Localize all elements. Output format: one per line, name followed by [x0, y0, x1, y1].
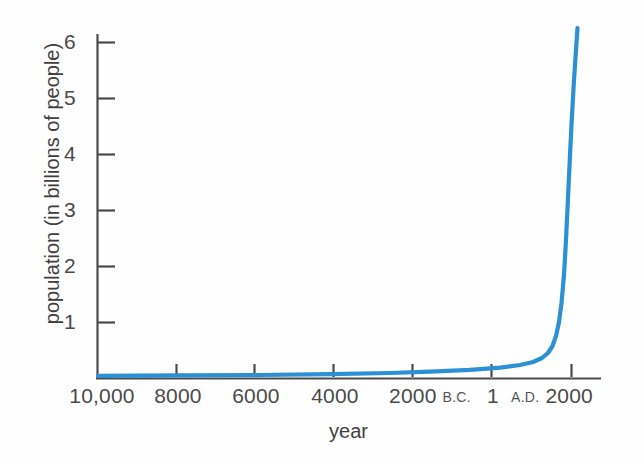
y-axis-ticks: [98, 43, 115, 323]
era-mark-ad: A.D.: [511, 389, 539, 405]
x-axis-title: year: [97, 420, 600, 443]
x-tick-label-6000bc: 6000: [232, 384, 280, 408]
x-tick-label-2000ad-value: 2000: [545, 384, 593, 407]
population-curve: [98, 28, 578, 376]
population-growth-chart: 6 5 4 3 2 1 10,000 8000 6000 4000 2000B.…: [0, 0, 643, 461]
y-axis-title: population (in billions of people): [41, 4, 64, 364]
x-tick-label-2000bc-value: 2000: [389, 384, 437, 407]
era-mark-bc: B.C.: [443, 389, 471, 405]
x-tick-label-4000bc: 4000: [311, 384, 359, 408]
x-tick-label-2000bc: 2000B.C.: [389, 384, 471, 408]
x-tick-label-2000ad: A.D.2000: [511, 384, 593, 408]
x-tick-label-10000bc: 10,000: [69, 384, 134, 408]
x-tick-label-8000bc: 8000: [154, 384, 202, 408]
x-tick-label-year1: 1: [487, 384, 499, 408]
